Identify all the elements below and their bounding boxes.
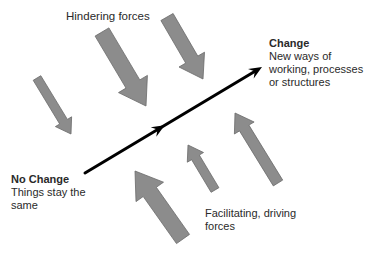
facilitating-force-arrow-icon [234, 113, 282, 186]
change-desc-line3: or structures [269, 76, 363, 89]
no-change-title: No Change [11, 173, 86, 186]
hindering-force-arrow-icon [95, 28, 147, 106]
facilitating-force-arrow-icon [135, 171, 190, 244]
facilitating-forces-text-line1: Facilitating, driving [205, 207, 296, 220]
hindering-forces-text: Hindering forces [66, 10, 150, 23]
change-title: Change [269, 37, 363, 50]
facilitating-forces-text-line2: forces [205, 220, 296, 233]
no-change-label: No Change Things stay the same [11, 173, 86, 212]
change-desc-line1: New ways of [269, 50, 363, 63]
force-field-diagram: Hindering forces Change New ways of work… [0, 0, 369, 253]
change-label: Change New ways of working, processes or… [269, 37, 363, 89]
hindering-force-arrow-icon [33, 76, 71, 134]
main-arrow-shaft [85, 72, 254, 173]
change-desc-line2: working, processes [269, 63, 363, 76]
facilitating-force-arrow-icon [187, 145, 219, 192]
facilitating-forces-label: Facilitating, driving forces [205, 207, 296, 233]
no-change-desc-line2: same [11, 199, 86, 212]
no-change-desc-line1: Things stay the [11, 186, 86, 199]
hindering-forces-label: Hindering forces [66, 10, 150, 23]
hindering-force-arrow-icon [161, 14, 205, 80]
